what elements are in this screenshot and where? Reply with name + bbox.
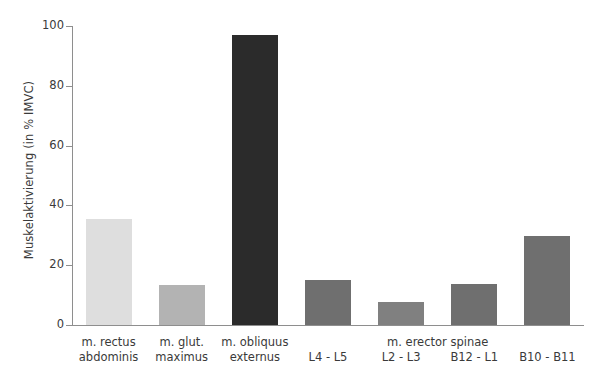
y-axis-tick-label: 80	[28, 80, 64, 91]
x-axis-label-line1: m. obliquus	[221, 335, 288, 349]
y-axis-tick-mark	[66, 86, 72, 87]
x-axis-line	[72, 325, 584, 326]
x-axis-label-line1: B10 - B11	[519, 350, 576, 364]
x-axis-group-label: m. erector spinae	[291, 335, 584, 350]
bar	[305, 280, 351, 325]
x-axis-label-line2: maximus	[145, 350, 218, 365]
x-axis-label-line1: L4 - L5	[309, 350, 348, 364]
bar	[86, 219, 132, 325]
bar	[232, 35, 278, 325]
y-axis-tick-mark	[66, 265, 72, 266]
bar	[524, 236, 570, 325]
bar	[159, 285, 205, 325]
x-axis-label-line2: externus	[218, 350, 291, 365]
bar	[378, 302, 424, 325]
y-axis-tick-mark	[66, 205, 72, 206]
y-axis-tick-labels: 100806040200	[28, 0, 64, 385]
x-axis-label-line1: m. rectus	[81, 335, 135, 349]
x-axis-label: B12 - L1	[438, 350, 511, 365]
y-axis-tick-mark	[66, 146, 72, 147]
y-axis-tick-label: 40	[28, 199, 64, 210]
x-axis-label: m. glut.maximus	[145, 335, 218, 365]
bar-chart: Muskelaktivierung (in % IMVC) 1008060402…	[0, 0, 596, 385]
x-axis-label: L2 - L3	[365, 350, 438, 365]
x-axis-label-line1: L2 - L3	[382, 350, 421, 364]
y-axis-tick-mark	[66, 26, 72, 27]
x-axis-label: L4 - L5	[291, 350, 364, 365]
y-axis-tick-label: 20	[28, 259, 64, 270]
x-axis-label: m. obliquusexternus	[218, 335, 291, 365]
x-axis-labels: m. rectusabdominism. glut.maximusm. obli…	[72, 329, 584, 385]
plot-area	[72, 26, 584, 325]
y-axis-tick-mark	[66, 325, 72, 326]
y-axis-tick-label: 60	[28, 140, 64, 151]
x-axis-label: B10 - B11	[511, 350, 584, 365]
x-axis-label-line1: B12 - L1	[450, 350, 498, 364]
x-axis-label-line2: abdominis	[72, 350, 145, 365]
y-axis-tick-label: 0	[28, 319, 64, 330]
x-axis-label-line1: m. glut.	[159, 335, 203, 349]
x-axis-label: m. rectusabdominis	[72, 335, 145, 365]
bar	[451, 284, 497, 325]
y-axis-tick-label: 100	[28, 20, 64, 31]
